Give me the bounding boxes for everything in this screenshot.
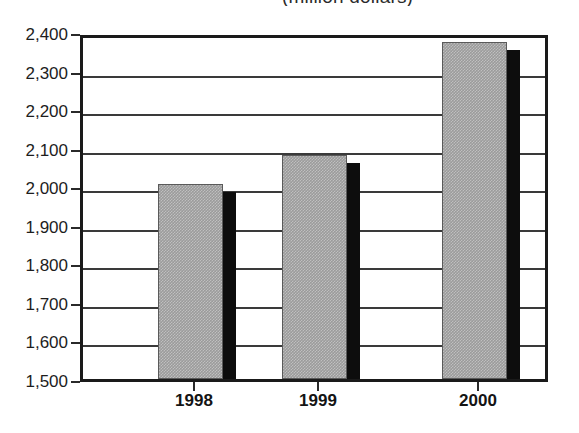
- y-axis-label: 2,300: [6, 65, 68, 82]
- y-axis-label: 1,800: [6, 257, 68, 274]
- bar-2000: [442, 42, 507, 379]
- y-axis-tick: [71, 150, 80, 152]
- y-axis-label: 2,100: [6, 142, 68, 159]
- y-axis-tick: [71, 227, 80, 229]
- plot-area: [80, 35, 548, 382]
- x-axis-tick: [193, 382, 195, 391]
- bar-group: [282, 155, 360, 379]
- y-axis-label: 1,600: [6, 334, 68, 351]
- bar-shadow: [223, 192, 236, 379]
- bar-chart-figure: (million dollars) 2,4002,3002,2002,1002,…: [0, 0, 579, 433]
- y-axis-label: 2,000: [6, 180, 68, 197]
- y-axis-label: 1,700: [6, 296, 68, 313]
- x-axis-tick: [317, 382, 319, 391]
- y-axis-label: 1,900: [6, 219, 68, 236]
- y-axis-tick: [71, 342, 80, 344]
- x-axis-label-1998: 1998: [134, 392, 254, 411]
- y-axis-tick: [71, 188, 80, 190]
- y-axis-tick: [71, 265, 80, 267]
- y-axis-label: 1,500: [6, 373, 68, 390]
- y-axis-tick: [71, 34, 80, 36]
- y-axis-tick: [71, 111, 80, 113]
- bar-group: [442, 42, 520, 379]
- bar-1998: [158, 184, 223, 379]
- x-axis-label-2000: 2000: [418, 392, 538, 411]
- y-axis-tick: [71, 381, 80, 383]
- y-axis-tick: [71, 304, 80, 306]
- bar-shadow: [507, 50, 520, 379]
- bar-group: [158, 184, 236, 379]
- plot-inner: [83, 38, 545, 379]
- chart-title: (million dollars): [282, 0, 512, 6]
- bar-shadow: [347, 163, 360, 379]
- y-axis-label: 2,400: [6, 26, 68, 43]
- y-axis-tick: [71, 73, 80, 75]
- y-axis-label-group: 2,4002,3002,2002,1002,0001,9001,8001,700…: [0, 0, 68, 433]
- y-axis-label: 2,200: [6, 103, 68, 120]
- x-axis-tick: [477, 382, 479, 391]
- x-axis-label-1999: 1999: [258, 392, 378, 411]
- bar-1999: [282, 155, 347, 379]
